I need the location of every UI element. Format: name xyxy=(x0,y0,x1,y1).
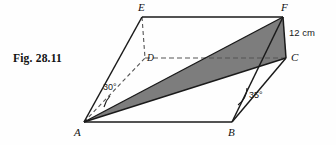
length-label-12cm: 12 cm xyxy=(289,27,315,38)
angle-arc-B xyxy=(238,88,247,105)
vertex-label-D: D xyxy=(147,53,154,63)
figure-page: Fig. 28.11 E F D C A B 12 cm 30° 35° xyxy=(0,0,336,145)
vertex-label-E: E xyxy=(138,1,145,13)
vertex-label-C: C xyxy=(291,51,298,63)
angle-label-30: 30° xyxy=(103,82,117,92)
geometry-figure xyxy=(0,0,336,145)
angle-arc-A xyxy=(104,96,110,107)
angle-label-35: 35° xyxy=(249,90,263,100)
vertex-label-F: F xyxy=(281,1,288,13)
figure-caption: Fig. 28.11 xyxy=(13,52,62,64)
vertex-label-A: A xyxy=(74,126,81,138)
vertex-label-B: B xyxy=(228,126,235,138)
edge-ED-dashed xyxy=(142,17,145,58)
